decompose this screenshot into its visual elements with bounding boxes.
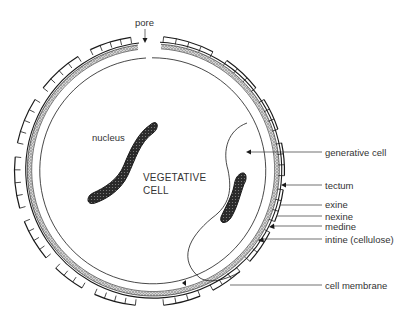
label-vegetative-cell-line2: CELL [143, 186, 169, 196]
generative-nucleus [221, 173, 246, 223]
label-tectum: tectum [325, 181, 354, 191]
label-exine: exine [325, 200, 348, 210]
pollen-wall [26, 42, 282, 298]
pollen-grain-diagram: pore nucleus VEGETATIVE CELL generative … [0, 0, 406, 317]
diagram-graphic [0, 0, 406, 317]
label-medine: medine [325, 222, 356, 232]
label-intine: intine (cellulose) [325, 235, 394, 245]
label-pore: pore [135, 18, 154, 28]
label-generative-cell: generative cell [325, 148, 386, 158]
tectum-segments [14, 37, 284, 306]
label-cell-membrane: cell membrane [325, 281, 387, 291]
leader-lines [143, 29, 323, 286]
label-nucleus: nucleus [92, 133, 125, 143]
label-vegetative-cell-line1: VEGETATIVE [143, 173, 206, 183]
